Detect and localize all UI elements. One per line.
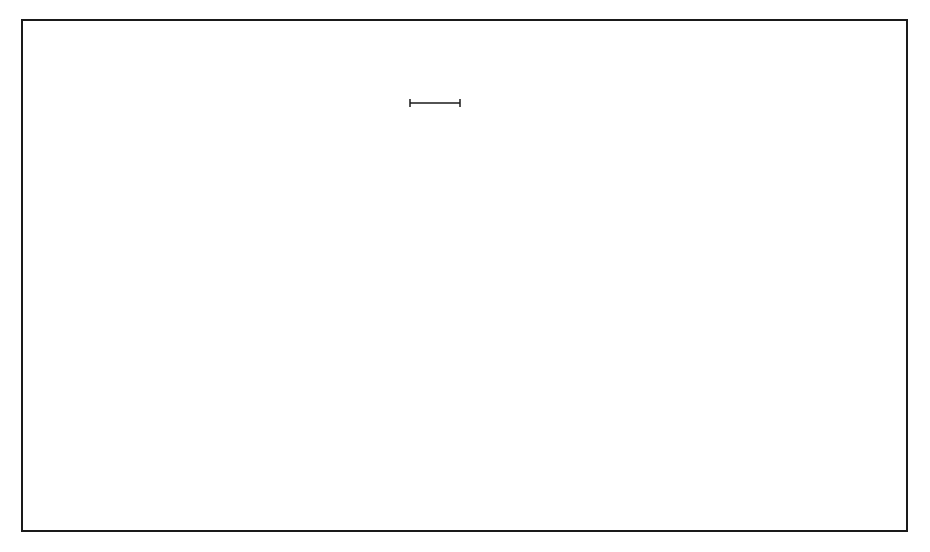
scale-bar bbox=[410, 99, 460, 107]
field-plot-figure bbox=[0, 0, 930, 552]
plot-frame bbox=[22, 20, 907, 531]
